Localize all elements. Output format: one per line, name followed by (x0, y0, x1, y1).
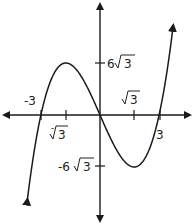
y-label-neg6root3: -6 3 (58, 158, 94, 174)
svg-text:3: 3 (58, 128, 66, 142)
y-label-6root3: 6 3 (107, 55, 135, 71)
svg-text:3: 3 (130, 93, 138, 107)
svg-text:3: 3 (124, 57, 132, 71)
svg-text:3: 3 (83, 160, 91, 174)
svg-text:-: - (51, 123, 54, 133)
x-label-neg-root3: - 3 (50, 123, 68, 142)
svg-text:6: 6 (107, 57, 115, 71)
x-label-neg3: -3 (24, 94, 36, 108)
svg-text:-6: -6 (58, 160, 70, 174)
x-label-pos3: 3 (156, 128, 164, 142)
x-label-root3: 3 (122, 91, 140, 107)
cubic-function-graph: -3 - 3 3 3 6 3 -6 3 (0, 0, 194, 224)
